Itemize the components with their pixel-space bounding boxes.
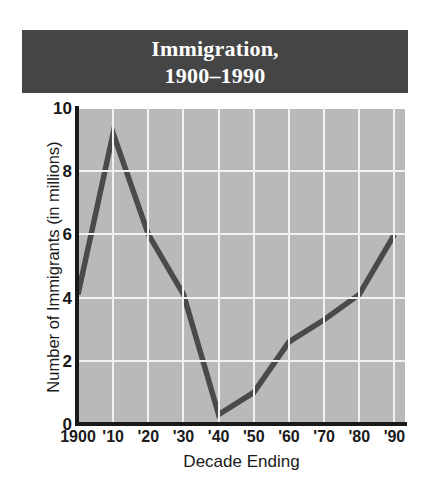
gridline-vertical xyxy=(393,108,395,424)
x-tick-label: '90 xyxy=(384,428,406,446)
y-axis-tick-labels: 0246810 xyxy=(30,108,72,424)
y-tick-label: 8 xyxy=(38,163,72,180)
gridline-vertical xyxy=(112,108,114,424)
x-tick-label: '80 xyxy=(348,428,370,446)
y-axis-line xyxy=(75,106,79,426)
immigration-line-chart-figure: Immigration, 1900–1990 Number of Immigra… xyxy=(0,0,423,496)
plot-region: Number of Immigrants (in millions) 02468… xyxy=(0,96,423,496)
x-tick-label: '60 xyxy=(278,428,300,446)
gridline-horizontal xyxy=(78,360,405,362)
y-axis-title-holder: Number of Immigrants (in millions) xyxy=(0,108,30,424)
y-tick-label: 4 xyxy=(38,290,72,307)
x-tick-label: '20 xyxy=(138,428,160,446)
gridline-vertical xyxy=(288,108,290,424)
gridline-horizontal xyxy=(78,233,405,235)
x-tick-label: '40 xyxy=(208,428,230,446)
y-tick-label: 2 xyxy=(38,353,72,370)
immigration-data-line xyxy=(78,133,394,414)
y-tick-label: 10 xyxy=(38,100,72,117)
x-tick-label: '70 xyxy=(313,428,335,446)
gridline-vertical xyxy=(182,108,184,424)
chart-title-line-1: Immigration, xyxy=(151,35,279,62)
gridline-horizontal xyxy=(78,107,405,109)
x-tick-label: '10 xyxy=(102,428,124,446)
x-axis-title: Decade Ending xyxy=(78,452,405,471)
gridline-horizontal xyxy=(78,170,405,172)
x-tick-label: '30 xyxy=(173,428,195,446)
plot-area xyxy=(78,108,405,424)
y-tick-label: 6 xyxy=(38,226,72,243)
data-line-svg xyxy=(78,108,405,424)
gridline-vertical xyxy=(323,108,325,424)
x-axis-line xyxy=(75,422,407,426)
chart-title-line-2: 1900–1990 xyxy=(165,62,266,89)
x-tick-label: '50 xyxy=(243,428,265,446)
x-tick-label: 1900 xyxy=(60,428,96,446)
gridline-horizontal xyxy=(78,297,405,299)
chart-title-banner: Immigration, 1900–1990 xyxy=(22,30,408,93)
gridline-vertical xyxy=(253,108,255,424)
x-axis-tick-labels: 1900'10'20'30'40'50'60'70'80'90 xyxy=(78,428,405,450)
gridline-vertical xyxy=(147,108,149,424)
gridline-vertical xyxy=(218,108,220,424)
gridline-vertical xyxy=(358,108,360,424)
